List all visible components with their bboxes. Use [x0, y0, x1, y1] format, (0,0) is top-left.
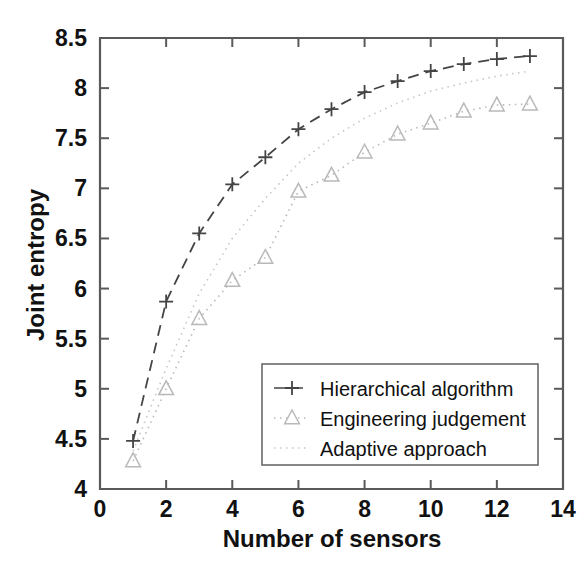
marker-triangle — [192, 311, 207, 325]
marker-plus — [490, 52, 504, 66]
marker-plus — [192, 226, 206, 240]
marker-plus — [424, 64, 438, 78]
y-tick-label: 6.5 — [55, 225, 87, 251]
legend-label: Adaptive approach — [320, 438, 487, 460]
y-tick-label: 4.5 — [55, 426, 87, 452]
x-tick-label: 6 — [292, 496, 305, 522]
legend-label: Engineering judgement — [320, 408, 526, 430]
legend-label: Hierarchical algorithm — [320, 378, 513, 400]
y-tick-label: 7.5 — [55, 125, 87, 151]
x-tick-label: 2 — [160, 496, 173, 522]
y-tick-label: 5 — [74, 376, 87, 402]
marker-plus — [159, 295, 173, 309]
x-axis-title: Number of sensors — [223, 525, 442, 552]
marker-triangle — [489, 97, 504, 111]
marker-plus — [126, 434, 140, 448]
y-axis-title: Joint entropy — [22, 188, 49, 341]
marker-triangle — [523, 96, 538, 110]
y-tick-label: 8 — [74, 75, 87, 101]
marker-plus — [457, 57, 471, 71]
marker-triangle — [225, 273, 240, 287]
marker-plus — [225, 177, 239, 191]
marker-triangle — [324, 167, 339, 181]
joint-entropy-line-chart: Joint entropy Number of sensors 44.555.5… — [0, 0, 585, 570]
marker-plus — [358, 85, 372, 99]
x-tick-label: 14 — [550, 496, 576, 522]
y-tick-label: 7 — [74, 175, 87, 201]
x-tick-label: 0 — [94, 496, 107, 522]
marker-plus — [291, 122, 305, 136]
marker-triangle — [357, 144, 372, 158]
y-tick-label: 6 — [74, 276, 87, 302]
marker-triangle — [423, 115, 438, 129]
y-tick-label: 8.5 — [55, 25, 87, 51]
marker-plus — [325, 102, 339, 116]
chart-figure: Joint entropy Number of sensors 44.555.5… — [0, 0, 585, 570]
marker-triangle — [390, 126, 405, 140]
marker-triangle — [291, 183, 306, 197]
marker-triangle — [456, 103, 471, 117]
y-tick-label: 5.5 — [55, 326, 87, 352]
marker-plus — [523, 49, 537, 63]
x-tick-label: 8 — [358, 496, 371, 522]
chart-legend[interactable]: Hierarchical algorithmEngineering judgem… — [262, 364, 538, 465]
marker-plus — [391, 74, 405, 88]
x-tick-label: 12 — [484, 496, 510, 522]
x-tick-label: 4 — [226, 496, 239, 522]
y-tick-label: 4 — [74, 476, 87, 502]
x-tick-label: 10 — [418, 496, 444, 522]
marker-triangle — [159, 381, 174, 395]
